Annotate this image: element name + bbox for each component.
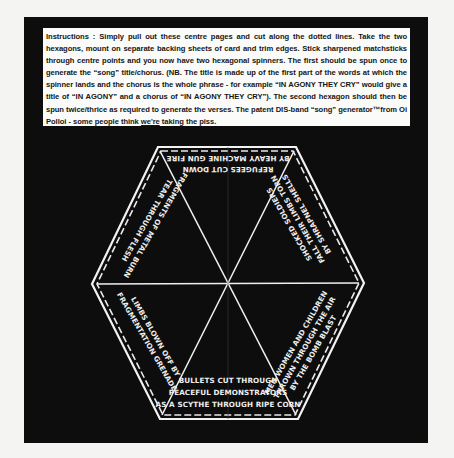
segment-bottom-line-2: PEACEFUL DEMONSTRATORS	[169, 388, 287, 397]
segment-bottom-line-1: BULLETS CUT THROUGH	[179, 376, 278, 385]
segment-lower-left: LIMBS BLOWN OFF BY FRAGMENTATION GRENADE	[115, 286, 188, 393]
segment-upper-left-line-1: FRAGMENTS OF METAL BURN	[122, 171, 190, 280]
segment-upper-right: SHOCKED SOLDIERS FALL THEIR LIMBS TORN B…	[260, 169, 335, 270]
segment-top-line-1: REFUGEES CUT DOWN	[183, 165, 274, 174]
segment-bottom-line-3: AS A SCYTHE THROUGH RIPE CORN	[156, 400, 301, 409]
segment-lower-left-line-2: FRAGMENTATION GRENADE	[115, 291, 179, 393]
hexagon-spinner: REFUGEES CUT DOWN BY HEAVY MACHINE GUN F…	[0, 0, 454, 458]
segment-upper-left: FRAGMENTS OF METAL BURN TEAR THROUGH FLE…	[113, 166, 190, 280]
segment-upper-right-line-2: FALL THEIR LIMBS TORN	[269, 174, 327, 265]
segment-lower-left-line-1: LIMBS BLOWN OFF BY	[129, 295, 182, 378]
segment-top-line-2: BY HEAVY MACHINE GUN FIRE	[167, 154, 290, 163]
